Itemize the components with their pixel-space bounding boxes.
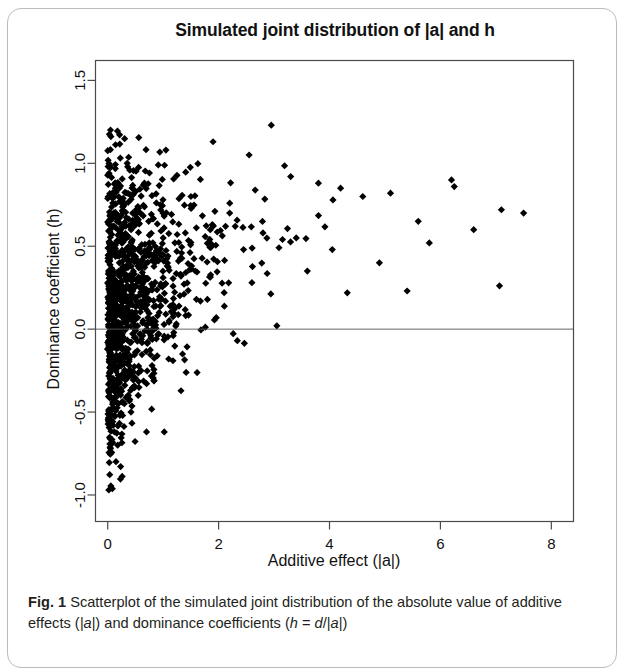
data-point xyxy=(263,234,270,241)
data-point xyxy=(162,146,169,153)
data-point xyxy=(258,259,265,266)
data-point xyxy=(161,428,168,435)
data-point xyxy=(226,209,233,216)
data-point xyxy=(117,154,124,161)
x-tick-label: 0 xyxy=(104,535,112,552)
y-tick-label: 0.0 xyxy=(71,319,88,340)
data-point xyxy=(337,185,344,192)
data-point xyxy=(246,151,253,158)
data-point xyxy=(187,164,194,171)
data-point xyxy=(125,154,132,161)
data-point xyxy=(344,289,351,296)
data-point xyxy=(225,279,232,286)
data-point xyxy=(496,282,503,289)
data-point xyxy=(135,134,142,141)
data-point xyxy=(155,161,162,168)
data-point xyxy=(171,289,178,296)
data-point xyxy=(156,182,163,189)
data-point xyxy=(287,173,294,180)
data-point xyxy=(186,249,193,256)
data-point xyxy=(252,186,259,193)
data-point xyxy=(174,231,181,238)
data-point xyxy=(249,263,256,270)
caption-slash: /| xyxy=(323,615,331,631)
data-point xyxy=(273,322,280,329)
data-point xyxy=(221,303,228,310)
data-point xyxy=(183,343,190,350)
data-point xyxy=(197,176,204,183)
figure-caption: Fig. 1 Scatterplot of the simulated join… xyxy=(28,592,583,633)
data-point xyxy=(204,258,211,265)
data-point xyxy=(261,195,268,202)
data-point xyxy=(128,174,135,181)
data-point xyxy=(302,235,309,242)
data-point xyxy=(143,428,150,435)
data-point xyxy=(498,206,505,213)
data-point xyxy=(376,259,383,266)
x-axis-title: Additive effect (|a|) xyxy=(95,552,573,570)
data-point xyxy=(138,192,145,199)
data-point xyxy=(426,239,433,246)
data-point xyxy=(144,367,151,374)
x-tick-label: 6 xyxy=(436,535,444,552)
data-point xyxy=(190,255,197,262)
data-point xyxy=(135,392,142,399)
data-point xyxy=(157,303,164,310)
data-point xyxy=(121,135,128,142)
y-tick-label: -1.0 xyxy=(71,482,88,508)
data-point xyxy=(105,181,112,188)
data-point xyxy=(127,408,134,415)
data-point xyxy=(232,223,239,230)
data-point xyxy=(279,236,286,243)
data-point xyxy=(259,218,266,225)
data-point xyxy=(161,162,168,169)
data-point xyxy=(160,234,167,241)
data-point xyxy=(329,196,336,203)
data-point xyxy=(159,176,166,183)
data-point xyxy=(221,289,228,296)
data-point xyxy=(182,306,189,313)
caption-a: a xyxy=(331,615,339,631)
data-point xyxy=(221,257,228,264)
data-point xyxy=(267,290,274,297)
scatter-plot-svg: 02468-1.0-0.50.00.51.01.5 xyxy=(0,0,603,585)
data-point xyxy=(359,193,366,200)
data-point xyxy=(321,223,328,230)
data-point xyxy=(148,406,155,413)
data-point xyxy=(241,340,248,347)
data-point xyxy=(156,149,163,156)
data-point xyxy=(239,224,246,231)
data-point xyxy=(214,268,221,275)
y-axis-title: Dominance coefficient (h) xyxy=(45,149,63,449)
caption-close: |) xyxy=(339,615,348,631)
caption-abs-a: |a| xyxy=(80,615,96,631)
data-point xyxy=(315,180,322,187)
data-point xyxy=(315,212,322,219)
data-point xyxy=(387,190,394,197)
x-tick-label: 2 xyxy=(214,535,222,552)
data-point xyxy=(169,218,176,225)
data-point xyxy=(179,350,186,357)
data-point xyxy=(304,268,311,275)
data-point xyxy=(165,230,172,237)
y-tick-label: -0.5 xyxy=(71,399,88,425)
data-point xyxy=(287,238,294,245)
data-point xyxy=(182,229,189,236)
data-point xyxy=(240,246,247,253)
data-point xyxy=(329,246,336,253)
data-points-layer xyxy=(104,122,527,494)
data-point xyxy=(193,224,200,231)
data-point xyxy=(218,280,225,287)
caption-mid: ) and dominance coefficients ( xyxy=(95,615,289,631)
x-tick-label: 8 xyxy=(547,535,555,552)
data-point xyxy=(202,280,209,287)
caption-line-1: Scatterplot of the simulated joint distr… xyxy=(70,594,452,610)
data-point xyxy=(154,220,161,227)
data-point xyxy=(182,169,189,176)
data-point xyxy=(248,279,255,286)
data-point xyxy=(211,208,218,215)
data-point xyxy=(415,218,422,225)
figure-label: Fig. 1 xyxy=(28,594,66,610)
data-point xyxy=(171,343,178,350)
data-point xyxy=(106,471,113,478)
